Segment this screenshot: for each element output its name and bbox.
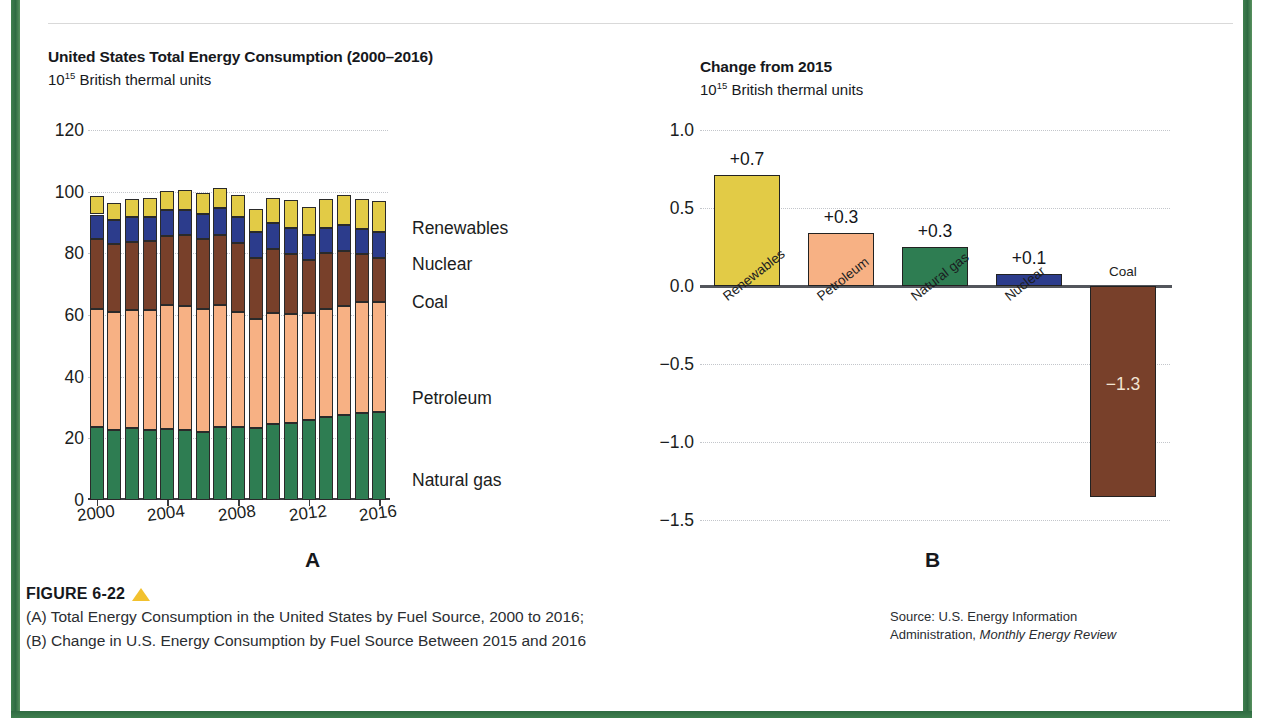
bar-segment-nuclear bbox=[266, 223, 280, 249]
x-axis-tick-label-2004: 2004 bbox=[146, 501, 186, 525]
bar-segment-nuclear bbox=[90, 215, 104, 239]
x-axis-label-coal: Coal bbox=[1090, 264, 1156, 279]
bar-segment-nuclear bbox=[231, 217, 245, 243]
y-axis-tick-label-b: 1.0 bbox=[670, 120, 694, 141]
bar-segment-renewables bbox=[337, 195, 351, 225]
stacked-bar-2006[interactable] bbox=[196, 193, 210, 500]
bar-segment-coal bbox=[319, 253, 333, 309]
bar-segment-nuclear bbox=[160, 210, 174, 235]
panel-b-subtitle-base: 10 bbox=[700, 81, 717, 98]
panel-a: United States Total Energy Consumption (… bbox=[0, 0, 640, 600]
bar-segment-coal bbox=[160, 236, 174, 305]
panel-a-subtitle: 1015 British thermal units bbox=[48, 70, 211, 88]
panel-a-letter: A bbox=[305, 548, 320, 572]
stacked-bar-2007[interactable] bbox=[213, 188, 227, 500]
bar-segment-nuclear bbox=[355, 229, 369, 255]
bar-segment-nuclear bbox=[302, 235, 316, 260]
stacked-bar-2005[interactable] bbox=[178, 190, 192, 500]
bar-segment-petroleum bbox=[249, 319, 263, 428]
bar-segment-coal bbox=[249, 258, 263, 319]
gridline-b bbox=[700, 130, 1170, 131]
bar-segment-petroleum bbox=[284, 314, 298, 423]
bar-segment-natural-gas bbox=[160, 429, 174, 500]
bar-segment-coal bbox=[302, 260, 316, 314]
gridline-a bbox=[88, 130, 388, 131]
bar-segment-petroleum bbox=[337, 306, 351, 415]
gridline-a bbox=[88, 192, 388, 193]
gridline-b bbox=[700, 520, 1170, 521]
y-axis-tick-label-b: −0.5 bbox=[659, 354, 694, 375]
bar-segment-petroleum bbox=[143, 310, 157, 430]
bar-segment-nuclear bbox=[143, 217, 157, 241]
y-axis-tick-label-b: 0.0 bbox=[670, 276, 694, 297]
x-axis-tick-label-2000: 2000 bbox=[76, 501, 116, 525]
bar-segment-petroleum bbox=[196, 309, 210, 432]
figure-page: United States Total Energy Consumption (… bbox=[0, 0, 1271, 718]
series-label-nuclear: Nuclear bbox=[412, 254, 472, 275]
panel-a-subtitle-base: 10 bbox=[48, 71, 65, 88]
stacked-bar-2014[interactable] bbox=[337, 195, 351, 500]
bar-segment-coal bbox=[355, 254, 369, 302]
source-note: Source: U.S. Energy Information Administ… bbox=[890, 608, 1220, 645]
bar-segment-nuclear bbox=[337, 225, 351, 251]
stacked-bar-2009[interactable] bbox=[249, 209, 263, 500]
bar-segment-coal bbox=[143, 241, 157, 310]
bar-segment-natural-gas bbox=[319, 417, 333, 500]
stacked-bar-2013[interactable] bbox=[319, 199, 333, 500]
series-label-petroleum: Petroleum bbox=[412, 388, 492, 409]
y-axis-tick-label-a: 100 bbox=[55, 181, 84, 202]
stacked-bar-2004[interactable] bbox=[160, 191, 174, 500]
bar-segment-petroleum bbox=[90, 309, 104, 427]
value-label-natural-gas: +0.3 bbox=[902, 221, 968, 242]
bar-segment-petroleum bbox=[302, 313, 316, 419]
bar-segment-petroleum bbox=[125, 310, 139, 428]
series-label-coal: Coal bbox=[412, 292, 448, 313]
bar-segment-coal bbox=[231, 243, 245, 312]
value-label-renewables: +0.7 bbox=[714, 149, 780, 170]
bar-segment-petroleum bbox=[319, 309, 333, 417]
triangle-icon bbox=[132, 588, 150, 601]
bar-segment-renewables bbox=[266, 198, 280, 223]
bar-segment-nuclear bbox=[107, 220, 121, 245]
bar-segment-natural-gas bbox=[107, 430, 121, 500]
bar-segment-renewables bbox=[125, 199, 139, 217]
y-axis-tick-label-a: 60 bbox=[65, 305, 84, 326]
bar-segment-natural-gas bbox=[125, 428, 139, 500]
stacked-bar-2016[interactable] bbox=[372, 201, 386, 500]
bar-segment-coal bbox=[213, 235, 227, 305]
panel-b-title: Change from 2015 bbox=[700, 58, 832, 76]
series-label-renewables: Renewables bbox=[412, 218, 508, 239]
stacked-bar-2001[interactable] bbox=[107, 203, 121, 500]
bar-segment-natural-gas bbox=[213, 427, 227, 500]
bar-segment-renewables bbox=[143, 198, 157, 217]
y-axis-tick-label-b: −1.0 bbox=[659, 432, 694, 453]
bar-segment-nuclear bbox=[125, 217, 139, 242]
bar-segment-nuclear bbox=[372, 232, 386, 258]
bar-segment-natural-gas bbox=[90, 427, 104, 500]
stacked-bar-2011[interactable] bbox=[284, 200, 298, 500]
bar-segment-natural-gas bbox=[302, 420, 316, 500]
stacked-bar-2003[interactable] bbox=[143, 198, 157, 500]
bar-segment-coal bbox=[337, 251, 351, 307]
bar-segment-natural-gas bbox=[337, 415, 351, 500]
panel-b-subtitle-exponent: 15 bbox=[717, 80, 728, 91]
panel-b-subtitle: 1015 British thermal units bbox=[700, 80, 863, 98]
stacked-bar-2015[interactable] bbox=[355, 199, 369, 500]
series-label-natural-gas: Natural gas bbox=[412, 470, 502, 491]
bar-segment-petroleum bbox=[266, 313, 280, 424]
bar-segment-natural-gas bbox=[284, 423, 298, 500]
stacked-bar-2008[interactable] bbox=[231, 195, 245, 500]
stacked-bar-2010[interactable] bbox=[266, 198, 280, 500]
stacked-bar-2000[interactable] bbox=[90, 196, 104, 500]
bar-segment-nuclear bbox=[319, 228, 333, 253]
source-line-2: Administration, Monthly Energy Review bbox=[890, 626, 1220, 644]
y-axis-tick-label-a: 20 bbox=[65, 428, 84, 449]
panel-b-subtitle-rest: British thermal units bbox=[727, 81, 863, 98]
stacked-bar-2012[interactable] bbox=[302, 207, 316, 500]
bar-segment-petroleum bbox=[178, 306, 192, 431]
x-axis-tick-label-2008: 2008 bbox=[217, 501, 257, 525]
bar-segment-renewables bbox=[160, 191, 174, 210]
bar-segment-coal bbox=[196, 239, 210, 308]
bar-segment-natural-gas bbox=[266, 424, 280, 500]
stacked-bar-2002[interactable] bbox=[125, 199, 139, 500]
